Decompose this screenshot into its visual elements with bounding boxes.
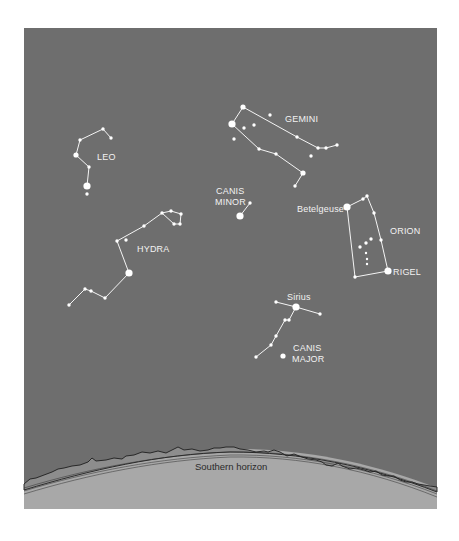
star-ori-sword-2 [366,258,368,260]
star-ori-belt-2 [364,241,367,244]
star-chart: Southern horizon LEO GEMINI CANIS MINOR … [0,0,459,541]
star-ori-2 [361,197,364,200]
label-leo: LEO [97,152,116,162]
star-leo-2 [101,127,104,130]
star-gem-4 [252,123,255,126]
star-ori-rigel [384,267,391,274]
star-hya-7 [124,238,127,241]
label-hydra: HYDRA [137,244,170,254]
star-cma-9 [280,353,285,358]
label-orion: ORION [390,226,421,236]
star-ori-belt-1 [358,245,361,248]
star-cma-3 [318,312,321,315]
star-cma-1 [274,300,277,303]
star-cma-sirius [292,303,299,310]
star-hya-6 [115,239,118,242]
star-leo-regulus [83,182,90,189]
star-leo-4 [73,152,78,157]
star-cma-6 [274,334,277,337]
star-cmi-procyon [236,212,243,219]
star-hya-3 [89,289,92,292]
star-gem-9 [295,135,298,138]
star-ori-3 [365,194,368,197]
star-ori-betelgeuse [343,203,350,210]
star-ori-belt-3 [369,237,372,240]
star-cma-4 [283,318,286,321]
star-leo-5 [87,165,90,168]
star-ori-sword-3 [366,263,368,265]
star-ori-5 [379,238,382,241]
sky-panel [24,28,437,509]
star-hya-alphard [125,269,132,276]
star-gem-11 [324,146,327,149]
star-gem-13 [309,154,312,157]
star-gem-3 [268,113,271,116]
label-canis-major-2: MAJOR [292,354,325,364]
label-gemini: GEMINI [285,114,318,124]
star-gem-10 [316,146,319,149]
star-gem-pollux [228,120,235,127]
star-hya-10 [169,209,172,212]
star-gem-12 [335,143,338,146]
star-cmi-2 [248,201,251,204]
star-hya-12 [172,222,175,225]
star-hya-1 [67,303,70,306]
horizon-label: Southern horizon [195,461,267,472]
star-leo-1 [78,138,81,141]
star-gem-6 [232,137,235,140]
label-rigel: RIGEL [393,267,421,277]
star-gem-14 [300,170,305,175]
star-gem-8 [274,152,277,155]
star-hya-8 [142,224,145,227]
star-leo-7 [85,192,88,195]
star-leo-3 [109,136,112,139]
label-canis-minor-1: CANIS [216,186,245,196]
star-hya-13 [178,222,181,225]
star-ori-sword-1 [365,252,367,254]
star-cma-8 [254,355,257,358]
label-betelgeuse: Betelgeuse [297,204,344,214]
star-ori-7 [353,275,356,278]
star-hya-4 [103,296,106,299]
label-canis-major-1: CANIS [293,343,322,353]
star-hya-11 [179,212,182,215]
star-gem-castor [240,104,245,109]
star-cma-7 [269,343,272,346]
star-hya-9 [160,211,163,214]
label-canis-minor-2: MINOR [215,197,246,207]
star-gem-7 [257,147,260,150]
star-gem-5 [242,126,245,129]
star-ori-4 [372,211,375,214]
label-sirius: Sirius [287,292,311,302]
star-gem-15 [293,184,296,187]
star-cma-5 [287,318,290,321]
star-hya-2 [83,287,86,290]
